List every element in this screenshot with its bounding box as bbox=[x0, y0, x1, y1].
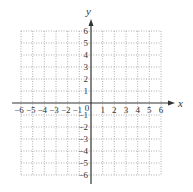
y-tick-label: 1 bbox=[84, 86, 89, 96]
y-tick-label: −6 bbox=[78, 170, 88, 180]
y-axis-arrow-icon bbox=[89, 19, 94, 26]
y-tick-label: 5 bbox=[84, 38, 89, 48]
x-tick-label: −6 bbox=[14, 105, 24, 115]
x-tick-label: 6 bbox=[159, 105, 164, 115]
x-tick-label: −5 bbox=[26, 105, 36, 115]
y-tick-label: −1 bbox=[78, 110, 88, 120]
x-tick-label: 4 bbox=[135, 105, 140, 115]
axes bbox=[12, 19, 175, 184]
y-tick-label: −3 bbox=[78, 134, 88, 144]
x-tick-label: −3 bbox=[49, 105, 59, 115]
x-axis-arrow-icon bbox=[168, 101, 175, 106]
x-axis-label: x bbox=[177, 97, 183, 109]
x-tick-label: 5 bbox=[147, 105, 152, 115]
y-tick-label: −5 bbox=[78, 158, 88, 168]
y-tick-label: −4 bbox=[78, 146, 88, 156]
y-tick-label: 2 bbox=[84, 74, 89, 84]
coordinate-plane: x y −6−5−4−3−2−10123456 −6−5−4−3−2−11234… bbox=[0, 0, 193, 192]
x-tick-label: −2 bbox=[61, 105, 71, 115]
x-tick-labels: −6−5−4−3−2−10123456 bbox=[14, 103, 164, 115]
y-tick-label: 4 bbox=[84, 50, 89, 60]
y-tick-label: −2 bbox=[78, 122, 88, 132]
x-tick-label: 2 bbox=[112, 105, 117, 115]
y-axis-label: y bbox=[85, 5, 91, 17]
x-tick-label: 3 bbox=[124, 105, 129, 115]
y-tick-label: 3 bbox=[84, 62, 89, 72]
x-tick-label: −4 bbox=[38, 105, 48, 115]
x-tick-label: 1 bbox=[100, 105, 105, 115]
y-tick-label: 6 bbox=[84, 26, 89, 36]
